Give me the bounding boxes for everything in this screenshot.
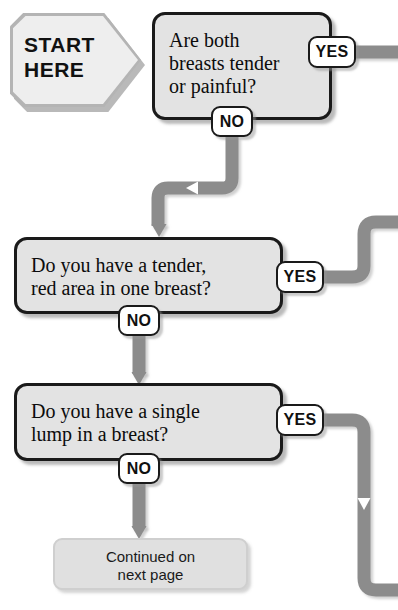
- arrowhead-q1-no-down: [152, 224, 167, 237]
- continued-next-page-box[interactable]: Continued on next page: [53, 538, 248, 590]
- chevron-notch-q3-yes: [358, 498, 371, 510]
- chevron-notch-q1-no: [186, 182, 198, 195]
- badge-yes-q2[interactable]: YES: [276, 261, 324, 293]
- connector-q2-yes: [324, 222, 398, 277]
- question-box-1: Are both breasts tender or painful?: [152, 12, 332, 120]
- question-box-3: Do you have a single lump in a breast?: [14, 383, 283, 461]
- continued-next-page-label: Continued on next page: [55, 548, 246, 584]
- badge-no-q2[interactable]: NO: [118, 305, 160, 336]
- badge-yes-q3[interactable]: YES: [276, 404, 324, 436]
- flowchart-canvas: START HERE Are both breasts tender or pa…: [0, 0, 398, 610]
- question-box-2: Do you have a tender, red area in one br…: [14, 237, 283, 314]
- question-box-2-text: Do you have a tender, red area in one br…: [31, 254, 276, 300]
- question-box-1-text: Are both breasts tender or painful?: [169, 29, 327, 98]
- question-box-3-text: Do you have a single lump in a breast?: [31, 400, 276, 446]
- connector-q1-no: [158, 137, 232, 226]
- connector-q3-yes: [324, 420, 398, 590]
- badge-no-q3[interactable]: NO: [118, 453, 160, 484]
- badge-yes-q1[interactable]: YES: [308, 36, 356, 68]
- badge-no-q1[interactable]: NO: [211, 106, 253, 137]
- start-here-node: START HERE: [10, 13, 141, 107]
- start-here-label: START HERE: [24, 32, 104, 82]
